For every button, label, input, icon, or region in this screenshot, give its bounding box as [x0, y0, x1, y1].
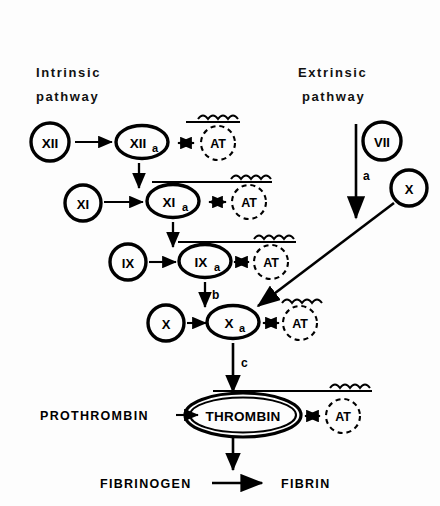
fibrin-label: FIBRIN: [281, 477, 330, 491]
node-antithrombin-3-label: AT: [263, 256, 279, 270]
intrinsic-pathway-label-line1: Intrinsic: [36, 65, 101, 80]
coagulation-cascade-figure: Intrinsic pathway Extrinsic pathway XII …: [0, 0, 440, 506]
node-factor-xa-subscript: a: [239, 322, 246, 334]
prothrombin-label: PROTHROMBIN: [40, 409, 149, 423]
cascade-svg: Intrinsic pathway Extrinsic pathway XII …: [0, 0, 440, 506]
step-label-a: a: [363, 169, 370, 183]
node-factor-xiia-label: XII: [130, 136, 147, 151]
node-factor-vii-label: VII: [374, 135, 390, 150]
node-thrombin-label: THROMBIN: [205, 409, 280, 424]
node-factor-xa-label: X: [224, 316, 233, 331]
node-antithrombin-2-label: AT: [241, 196, 257, 210]
node-factor-ixa-label: IX: [195, 255, 208, 270]
fibrinogen-label: FIBRINOGEN: [100, 477, 191, 491]
step-label-c: c: [241, 356, 248, 370]
node-factor-xiia-subscript: a: [152, 142, 159, 154]
node-antithrombin-1-label: AT: [210, 137, 226, 151]
node-antithrombin-5-label: AT: [335, 410, 351, 424]
intrinsic-pathway-label-line2: pathway: [36, 89, 99, 104]
extrinsic-pathway-label-line1: Extrinsic: [298, 65, 367, 80]
step-label-b: b: [212, 288, 219, 302]
node-factor-ixa-subscript: a: [214, 261, 221, 273]
node-factor-x-label: X: [162, 317, 171, 332]
extrinsic-pathway-label-line2: pathway: [302, 89, 365, 104]
node-factor-x-extrinsic-label: X: [405, 182, 414, 197]
node-factor-xia-subscript: a: [182, 201, 189, 213]
node-antithrombin-4-label: AT: [292, 317, 308, 331]
node-factor-xi-label: XI: [77, 197, 89, 212]
node-factor-ix-label: IX: [122, 256, 135, 271]
node-factor-xia-label: XI: [163, 195, 176, 210]
node-factor-xii-label: XII: [42, 136, 59, 151]
